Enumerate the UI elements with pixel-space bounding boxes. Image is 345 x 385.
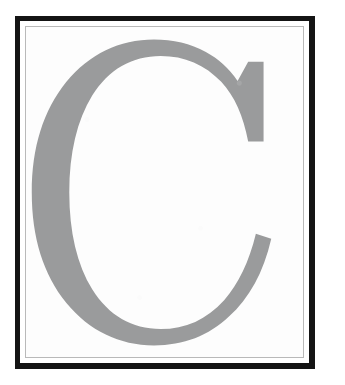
letter-plate xyxy=(26,27,303,357)
letter-c-glyph xyxy=(26,27,303,357)
image-canvas xyxy=(0,0,345,385)
letter-c-outline xyxy=(32,40,271,346)
frame-white-gap xyxy=(20,21,309,363)
letter-c-path-group xyxy=(32,40,271,346)
frame-inner-rule xyxy=(25,26,304,358)
frame-outer-rule xyxy=(15,16,315,369)
